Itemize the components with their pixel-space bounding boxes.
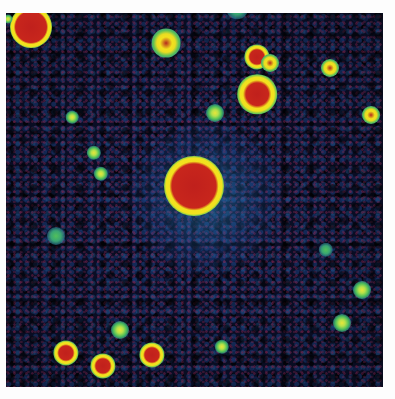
- source-upper-pair-b: [261, 54, 279, 72]
- source-right-low: [353, 281, 371, 299]
- source-bottom-d: [111, 321, 129, 339]
- caption-fragment: [0, 0, 395, 3]
- source-right-mid: [321, 59, 339, 77]
- source-right-upper: [237, 74, 277, 114]
- figure-page: [0, 0, 395, 399]
- source-left-low: [47, 227, 65, 245]
- astronomical-image: [6, 13, 383, 387]
- source-upper-mid: [152, 29, 181, 58]
- source-right-lower: [333, 314, 351, 332]
- source-mid-upper: [206, 104, 224, 122]
- source-central: [164, 156, 224, 216]
- source-left-b: [66, 111, 79, 124]
- source-right-edge: [362, 106, 380, 124]
